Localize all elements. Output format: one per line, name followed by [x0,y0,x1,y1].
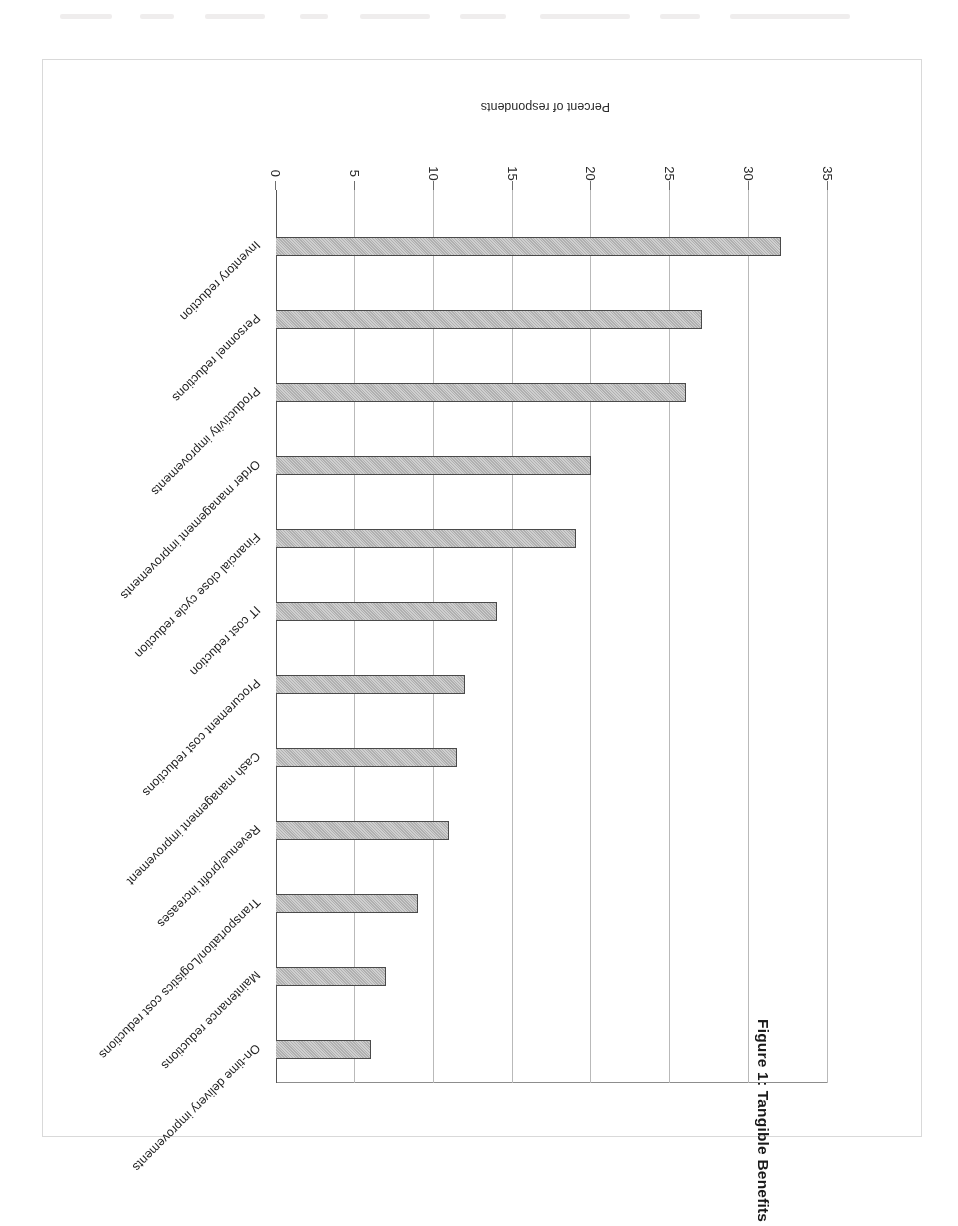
bar-maintenance-reductions [276,967,386,986]
bar-cash-management-improvement [276,748,457,767]
gridline-30 [748,190,749,1083]
tick-label-0: 0 [269,159,284,189]
gridline-35 [827,190,828,1083]
bar-procurement-cost-reductions [276,675,465,694]
bar-on-time-delivery-improvements [276,1040,371,1059]
tick-label-30: 30 [742,159,757,189]
bar-order-management-improvements [276,456,591,475]
plot-area [276,190,828,1083]
tick-label-5: 5 [347,159,362,189]
tick-label-20: 20 [584,159,599,189]
bar-personnel-reductions [276,310,702,329]
bar-revenue-profit-increases [276,821,450,840]
bar-it-cost-reduction [276,602,497,621]
bar-transportation-logistics [276,894,418,913]
tick-label-15: 15 [505,159,520,189]
tick-label-25: 25 [663,159,678,189]
tick-label-35: 35 [821,159,836,189]
bar-productivity-improvements [276,383,686,402]
bar-financial-close-cycle-reduction [276,529,576,548]
value-axis-title: Percent of respondents [481,100,610,114]
plot-top-rule [276,1082,828,1083]
bar-inventory-reduction [276,237,781,256]
tick-label-10: 10 [426,159,441,189]
